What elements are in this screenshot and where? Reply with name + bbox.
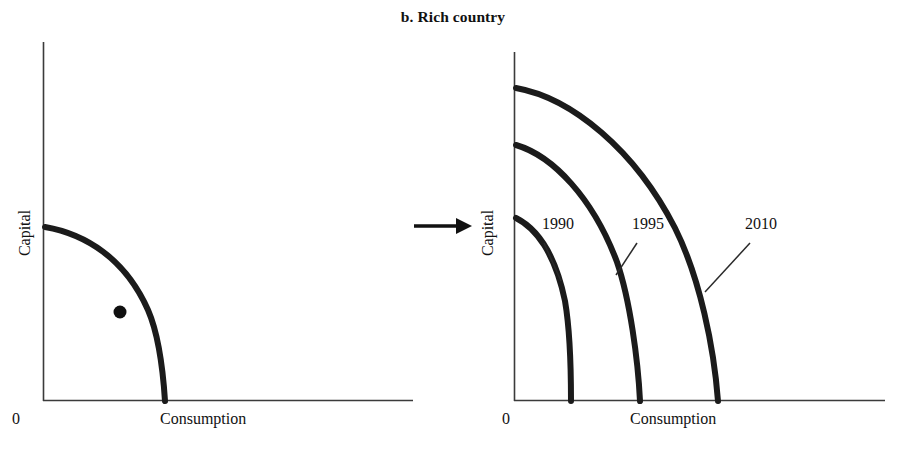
curve-label-1990: 1990: [542, 215, 574, 233]
production-point-marker: [114, 306, 127, 319]
right-y-axis-label: Capital: [479, 202, 497, 264]
panel-before-growth: Capital 0 Consumption: [0, 0, 460, 455]
figure-root: b. Rich country Capital 0 Consumption: [0, 0, 906, 455]
leader-line-1990: [544, 243, 561, 281]
left-x-axis-label: Consumption: [160, 410, 246, 428]
panel-after-growth: Capital 0 Consumption 1990 1995 2010: [460, 0, 906, 455]
leader-line-1995: [616, 243, 637, 275]
right-panel-plot: [460, 0, 906, 455]
ppf-curve-1990: [516, 218, 571, 401]
ppf-curve-1995: [516, 145, 640, 401]
curve-label-1995: 1995: [632, 215, 664, 233]
left-origin-label: 0: [12, 410, 20, 428]
right-x-axis-label: Consumption: [630, 410, 716, 428]
right-origin-label: 0: [502, 410, 510, 428]
curve-label-2010: 2010: [745, 215, 777, 233]
left-ppf-curve: [45, 227, 165, 401]
left-y-axis-label: Capital: [16, 202, 34, 264]
leader-line-2010: [705, 243, 750, 292]
left-panel-plot: [0, 0, 460, 455]
